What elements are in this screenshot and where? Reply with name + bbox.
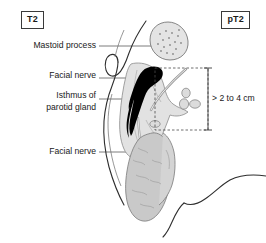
mastoid-process-oval xyxy=(150,22,188,60)
measurement-bracket xyxy=(204,68,212,130)
diagram-canvas: T2 pT2 Mastoid process Facial nerve Isth… xyxy=(0,0,266,243)
label-tumor-size-measurement: > 2 to 4 cm xyxy=(212,93,255,103)
stage-badge-clinical[interactable]: T2 xyxy=(21,11,44,29)
mandible-contour xyxy=(184,175,266,204)
label-facial-nerve-lower: Facial nerve xyxy=(6,146,96,158)
stage-badge-pathologic[interactable]: pT2 xyxy=(221,11,250,29)
mandible-contour-lower xyxy=(163,203,184,237)
label-isthmus-of-parotid-gland: Isthmus of parotid gland xyxy=(6,90,96,113)
anatomy-illustration xyxy=(0,0,266,243)
label-mastoid-process: Mastoid process xyxy=(6,40,96,52)
label-facial-nerve-upper: Facial nerve xyxy=(6,70,96,82)
